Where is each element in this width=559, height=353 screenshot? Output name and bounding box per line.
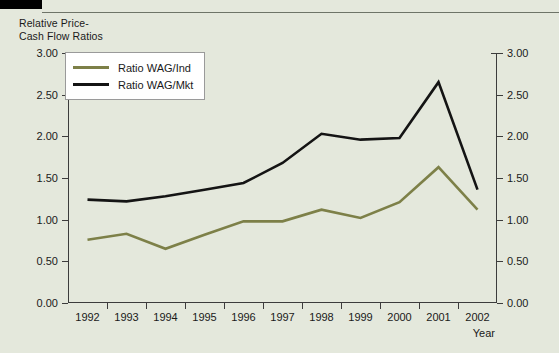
x-axis-label: Year	[473, 327, 495, 339]
x-tick-label: 2000	[387, 311, 411, 323]
legend-swatch-ratio-wag-ind	[73, 66, 109, 69]
x-tick	[458, 303, 459, 309]
x-tick	[263, 303, 264, 309]
x-tick	[185, 303, 186, 309]
y-tick-label-left: 2.50	[37, 89, 58, 101]
x-tick-label: 1996	[231, 311, 255, 323]
x-tick-label: 1997	[270, 311, 294, 323]
plot-area: 3.002.502.001.501.000.500.00 3.002.502.0…	[68, 53, 497, 303]
x-tick-label: 1992	[75, 311, 99, 323]
y-tick-label-right: 2.00	[507, 130, 528, 142]
y-tick-right	[497, 136, 503, 137]
y-tick-label-right: 1.50	[507, 172, 528, 184]
y-tick-label-right: 0.50	[507, 255, 528, 267]
x-tick	[107, 303, 108, 309]
header-divider-rule	[42, 12, 559, 13]
x-tick-label: 1994	[153, 311, 177, 323]
y-tick-label-right: 0.00	[507, 297, 528, 309]
legend-item-ratio-wag-mkt: Ratio WAG/Mkt	[73, 76, 197, 93]
y-tick-right	[497, 303, 503, 304]
y-axis-caption: Relative Price- Cash Flow Ratios	[19, 17, 103, 42]
x-tick	[380, 303, 381, 309]
y-tick-label-left: 1.00	[37, 214, 58, 226]
y-tick-right	[497, 220, 503, 221]
y-tick-label-left: 0.00	[37, 297, 58, 309]
series-line-ratio-wag-ind	[88, 167, 478, 249]
y-tick-label-right: 2.50	[507, 89, 528, 101]
y-tick-right	[497, 53, 503, 54]
y-tick-right	[497, 261, 503, 262]
y-tick-label-left: 0.50	[37, 255, 58, 267]
x-tick	[146, 303, 147, 309]
y-tick-right	[497, 95, 503, 96]
x-tick	[419, 303, 420, 309]
legend-swatch-ratio-wag-mkt	[73, 83, 109, 86]
y-tick-label-left: 3.00	[37, 47, 58, 59]
chart-legend: Ratio WAG/Ind Ratio WAG/Mkt	[65, 52, 205, 100]
corner-accent-bar	[0, 0, 42, 9]
y-tick-label-left: 2.00	[37, 130, 58, 142]
x-tick-label: 1993	[114, 311, 138, 323]
x-tick-label: 2002	[465, 311, 489, 323]
legend-label-ratio-wag-mkt: Ratio WAG/Mkt	[118, 79, 193, 91]
x-tick-label: 1998	[309, 311, 333, 323]
x-tick-label: 1999	[348, 311, 372, 323]
x-tick	[224, 303, 225, 309]
y-tick-label-right: 3.00	[507, 47, 528, 59]
legend-item-ratio-wag-ind: Ratio WAG/Ind	[73, 59, 197, 76]
x-tick	[302, 303, 303, 309]
x-tick-label: 2001	[426, 311, 450, 323]
x-tick	[341, 303, 342, 309]
y-tick-label-left: 1.50	[37, 172, 58, 184]
y-tick-right	[497, 178, 503, 179]
chart-figure: Relative Price- Cash Flow Ratios 3.002.5…	[0, 0, 559, 353]
y-tick-label-right: 1.00	[507, 214, 528, 226]
y-tick-left	[62, 303, 68, 304]
legend-label-ratio-wag-ind: Ratio WAG/Ind	[118, 62, 191, 74]
x-tick-label: 1995	[192, 311, 216, 323]
